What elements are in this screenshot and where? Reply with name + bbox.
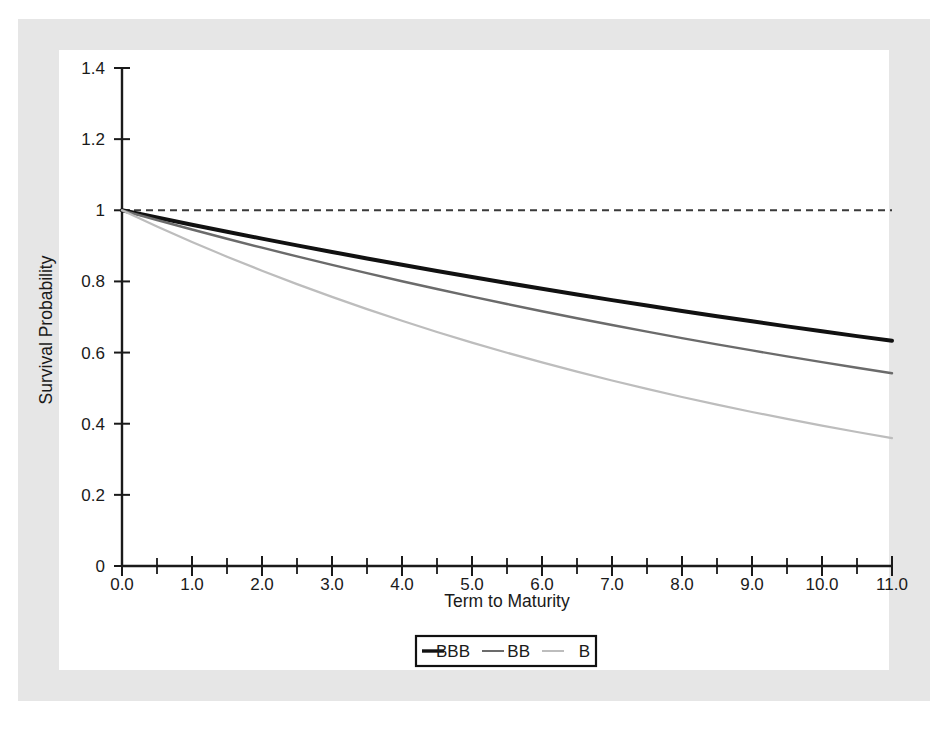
x-tick-label: 7.0 [600, 575, 624, 594]
y-tick-label: 1.4 [81, 59, 105, 78]
x-tick-label: 4.0 [390, 575, 414, 594]
y-tick-label: 0.2 [81, 486, 105, 505]
series-lines [122, 210, 892, 438]
x-tick-label: 8.0 [670, 575, 694, 594]
y-tick-label: 0.6 [81, 344, 105, 363]
y-tick-label: 0.8 [81, 272, 105, 291]
x-tick-label: 1.0 [180, 575, 204, 594]
y-tick-label: 0.4 [81, 415, 105, 434]
legend-label-b: B [579, 642, 590, 661]
chart-legend: BBBBBB [416, 636, 596, 666]
x-tick-label: 0.0 [110, 575, 134, 594]
y-axis-tick-labels: 00.20.40.60.811.21.4 [81, 59, 105, 576]
y-tick-label: 1.2 [81, 130, 105, 149]
chart-plot-area: 00.20.40.60.811.21.4 0.01.02.03.04.05.06… [0, 0, 949, 734]
legend-label-bbb: BBB [436, 642, 470, 661]
x-tick-label: 10.0 [805, 575, 838, 594]
series-line-bbb [122, 210, 892, 341]
x-tick-label: 11.0 [876, 575, 908, 594]
x-tick-label: 2.0 [250, 575, 274, 594]
x-axis-title: Term to Maturity [444, 591, 570, 611]
y-axis-title: Survival Probability [36, 255, 56, 404]
x-tick-label: 3.0 [320, 575, 344, 594]
figure-page: 00.20.40.60.811.21.4 0.01.02.03.04.05.06… [0, 0, 949, 734]
survival-probability-chart: 00.20.40.60.811.21.4 0.01.02.03.04.05.06… [0, 0, 949, 734]
x-tick-label: 9.0 [740, 575, 764, 594]
y-tick-label: 0 [96, 557, 105, 576]
legend-label-bb: BB [507, 642, 530, 661]
y-tick-label: 1 [96, 201, 105, 220]
